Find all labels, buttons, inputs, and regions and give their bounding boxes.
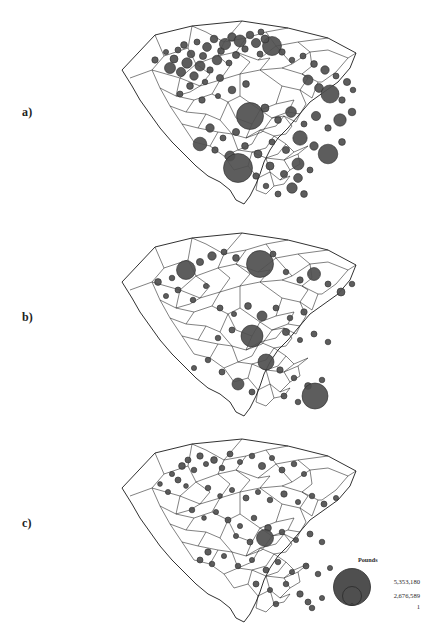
symbol-circle bbox=[220, 135, 226, 141]
symbol-circle bbox=[179, 463, 186, 470]
symbol-circle bbox=[212, 55, 222, 65]
symbol-circle bbox=[187, 83, 194, 90]
symbol-circle bbox=[275, 559, 281, 565]
symbol-circle bbox=[205, 357, 211, 363]
symbol-circle bbox=[321, 85, 339, 103]
symbol-circle bbox=[293, 131, 307, 145]
symbol-circle bbox=[190, 297, 196, 303]
symbol-circle bbox=[261, 104, 269, 112]
symbol-circle bbox=[237, 459, 242, 464]
symbol-circle bbox=[348, 108, 356, 116]
map-b bbox=[60, 220, 380, 420]
symbol-circle bbox=[205, 549, 211, 555]
legend-circle-small bbox=[351, 603, 353, 605]
legend-value-large: 5,353,180 bbox=[376, 578, 420, 585]
symbol-circle bbox=[253, 581, 259, 587]
symbol-circle bbox=[208, 252, 216, 260]
symbol-circle bbox=[258, 29, 264, 35]
symbol-circle bbox=[261, 35, 269, 43]
symbol-circle bbox=[266, 162, 274, 170]
symbol-circle bbox=[305, 599, 311, 605]
symbol-circle bbox=[221, 553, 226, 558]
symbol-circle bbox=[202, 79, 208, 85]
symbol-circle bbox=[215, 93, 220, 98]
symbol-circle bbox=[281, 393, 287, 399]
symbol-circle bbox=[279, 467, 285, 473]
symbol-circle bbox=[184, 484, 189, 489]
panel-a-label: a) bbox=[22, 105, 32, 120]
symbol-circle bbox=[177, 261, 196, 280]
symbol-circle bbox=[169, 471, 174, 476]
panel-b: b) bbox=[0, 212, 422, 417]
symbol-circle bbox=[269, 455, 274, 460]
symbol-circle bbox=[243, 81, 250, 88]
symbol-circle bbox=[194, 39, 200, 45]
symbol-circle bbox=[349, 281, 355, 287]
symbol-circle bbox=[319, 595, 324, 600]
symbol-circle bbox=[228, 86, 236, 94]
symbol-circle bbox=[207, 67, 213, 73]
symbol-circle bbox=[280, 170, 287, 177]
symbol-circle bbox=[227, 451, 233, 457]
symbol-circle bbox=[289, 569, 294, 574]
symbol-circle bbox=[163, 293, 168, 298]
symbol-circle bbox=[197, 557, 203, 563]
symbol-circle bbox=[243, 495, 249, 501]
symbol-circle bbox=[199, 97, 205, 103]
symbol-circle bbox=[295, 499, 300, 504]
symbol-circle bbox=[249, 389, 255, 395]
symbol-circle bbox=[287, 183, 297, 193]
symbol-circle bbox=[273, 601, 279, 607]
symbol-circle bbox=[279, 49, 285, 55]
symbol-circle bbox=[258, 462, 265, 469]
symbol-circle bbox=[315, 571, 321, 577]
symbol-circle bbox=[224, 154, 253, 183]
symbol-circle bbox=[226, 60, 232, 66]
symbol-circle bbox=[191, 365, 196, 370]
symbol-circle bbox=[258, 354, 274, 370]
symbol-circle bbox=[246, 31, 254, 39]
symbol-circle bbox=[337, 288, 345, 296]
symbol-circle bbox=[297, 277, 303, 283]
symbol-circle bbox=[282, 146, 289, 153]
legend-value-small: 1 bbox=[376, 603, 420, 610]
symbol-circle bbox=[225, 517, 231, 523]
figure-root: a) bbox=[0, 0, 422, 637]
symbol-circle bbox=[273, 305, 279, 311]
symbol-circle bbox=[279, 529, 285, 535]
symbol-circle bbox=[277, 367, 283, 373]
symbol-circle bbox=[307, 531, 313, 537]
symbol-circle bbox=[242, 143, 249, 150]
symbol-circle bbox=[235, 563, 241, 569]
symbol-circle bbox=[283, 269, 289, 275]
symbol-circle bbox=[195, 61, 205, 71]
symbol-circle bbox=[289, 57, 295, 63]
symbol-circle bbox=[321, 66, 329, 74]
legend-title: Pounds bbox=[358, 556, 378, 563]
symbol-circle bbox=[311, 331, 317, 337]
symbol-circle bbox=[197, 453, 203, 459]
symbol-circle bbox=[181, 42, 188, 49]
symbol-circle bbox=[231, 311, 236, 316]
symbol-circle bbox=[257, 530, 274, 547]
symbol-circle bbox=[169, 275, 175, 281]
symbol-circle bbox=[301, 309, 307, 315]
symbol-circle bbox=[267, 497, 273, 503]
symbol-circle bbox=[319, 377, 325, 383]
symbol-circle bbox=[190, 72, 198, 80]
legend-value-medium: 2,676,589 bbox=[376, 592, 420, 599]
symbol-circle bbox=[251, 38, 260, 47]
symbol-circle bbox=[333, 495, 338, 500]
symbol-circle bbox=[267, 587, 272, 592]
symbol-circle bbox=[155, 279, 162, 286]
symbol-circle bbox=[182, 58, 192, 68]
legend: Pounds 5,353,180 2,676,589 1 bbox=[330, 556, 422, 618]
symbol-circle bbox=[203, 43, 212, 52]
symbol-circle bbox=[199, 52, 206, 59]
symbol-circle bbox=[309, 493, 315, 499]
symbol-circle bbox=[212, 147, 218, 153]
symbol-circle bbox=[196, 258, 203, 265]
symbol-circle bbox=[232, 378, 244, 390]
symbol-circle bbox=[275, 117, 282, 124]
symbol-circle bbox=[291, 375, 297, 381]
